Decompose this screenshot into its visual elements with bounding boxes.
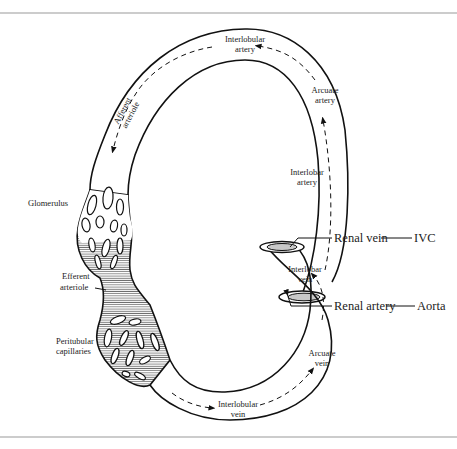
label-efferent-arteriole-2: arteriole bbox=[60, 282, 89, 292]
label-arcuate-vein-2: vein bbox=[315, 358, 330, 368]
label-peritubular-capillaries-2: capillaries bbox=[56, 346, 91, 356]
label-glomerulus: Glomerulus bbox=[28, 198, 68, 208]
label-arcuate-artery-1: Arcuate bbox=[312, 85, 339, 95]
label-arcuate-artery-2: artery bbox=[315, 95, 336, 105]
label-ivc: IVC bbox=[414, 231, 436, 245]
renal-vein-opening bbox=[260, 242, 304, 253]
label-renal-vein: Renal vein bbox=[334, 231, 389, 245]
label-interlobar-vein-2: vein bbox=[298, 274, 313, 284]
label-interlobar-artery-2: artery bbox=[297, 177, 318, 187]
label-peritubular-capillaries-1: Peritubular bbox=[56, 336, 94, 346]
label-interlobar-vein-1: Interlobar bbox=[288, 264, 322, 274]
label-interlobular-artery-1: Interlobular bbox=[225, 34, 265, 44]
label-aorta: Aorta bbox=[417, 299, 446, 313]
label-efferent-arteriole-1: Efferent bbox=[62, 271, 90, 281]
label-renal-artery: Renal artery bbox=[334, 299, 396, 313]
label-interlobular-artery-2: artery bbox=[235, 44, 256, 54]
label-arcuate-vein-1: Arcuate bbox=[309, 348, 336, 358]
label-interlobular-vein-1: Interlobular bbox=[218, 399, 258, 409]
label-interlobular-vein-2: vein bbox=[231, 409, 246, 419]
label-interlobar-artery-1: Interlobar bbox=[290, 167, 324, 177]
renal-circulation-diagram: Interlobular artery Arcuate artery Inter… bbox=[0, 0, 457, 449]
capillary-column bbox=[77, 187, 170, 387]
